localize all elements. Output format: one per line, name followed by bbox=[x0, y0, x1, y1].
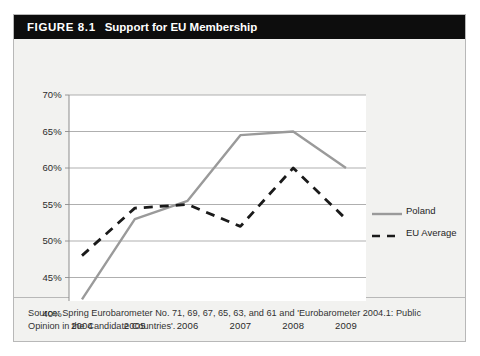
x-axis-tick-label: 2006 bbox=[168, 320, 208, 331]
chart-region: 40%45%50%55%60%65%70%2004200520062007200… bbox=[14, 39, 465, 297]
figure-container: FIGURE 8.1 Support for EU Membership 40%… bbox=[13, 14, 466, 342]
line-chart: 40%45%50%55%60%65%70%2004200520062007200… bbox=[14, 39, 465, 301]
legend-key-dashed-line bbox=[372, 227, 402, 237]
x-axis-tick-label: 2004 bbox=[62, 320, 102, 331]
figure-title-bar: FIGURE 8.1 Support for EU Membership bbox=[14, 15, 465, 39]
legend-item-eu-average: EU Average bbox=[372, 221, 464, 243]
y-axis-tick-label: 65% bbox=[32, 126, 62, 137]
legend-label-poland: Poland bbox=[406, 205, 436, 216]
figure-title: Support for EU Membership bbox=[105, 21, 258, 33]
x-axis-tick-label: 2005 bbox=[115, 320, 155, 331]
legend-item-poland: Poland bbox=[372, 199, 464, 221]
y-axis-tick-label: 45% bbox=[32, 272, 62, 283]
y-axis-tick-label: 60% bbox=[32, 162, 62, 173]
y-axis-tick-label: 50% bbox=[32, 235, 62, 246]
legend-key-solid-line bbox=[372, 205, 402, 215]
y-axis-tick-label: 40% bbox=[32, 308, 62, 319]
y-axis-tick-label: 70% bbox=[32, 89, 62, 100]
chart-svg bbox=[14, 39, 465, 301]
x-axis-tick-label: 2009 bbox=[326, 320, 366, 331]
chart-legend: Poland EU Average bbox=[372, 199, 464, 243]
figure-number: FIGURE 8.1 bbox=[27, 21, 96, 33]
legend-label-eu-average: EU Average bbox=[406, 227, 457, 238]
x-axis-tick-label: 2008 bbox=[273, 320, 313, 331]
x-axis-tick-label: 2007 bbox=[220, 320, 260, 331]
y-axis-tick-label: 55% bbox=[32, 199, 62, 210]
